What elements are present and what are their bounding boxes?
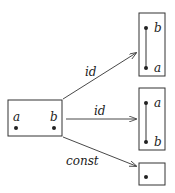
- source-set-box: a b: [8, 100, 62, 136]
- label-b: b: [154, 21, 162, 35]
- point-a: [144, 66, 148, 70]
- source-point-a: [14, 126, 18, 130]
- source-label-b: b: [50, 110, 58, 124]
- source-point-b: [52, 126, 56, 130]
- arrow-id-top: id: [63, 53, 136, 99]
- point-b: [144, 140, 148, 144]
- arrow-label: id: [94, 104, 106, 118]
- point: [144, 175, 148, 179]
- arrow-id-middle: id: [66, 104, 136, 119]
- target-box-bottom: [139, 163, 165, 185]
- arrow-const: const: [63, 137, 136, 168]
- source-label-a: a: [13, 110, 20, 124]
- arrow-label: id: [85, 65, 97, 79]
- diagram-canvas: a b b a a b id id const: [0, 0, 175, 193]
- target-box-top: b a: [139, 13, 165, 76]
- label-a: a: [154, 61, 161, 75]
- point-b: [144, 26, 148, 30]
- target-box-middle: a b: [139, 88, 165, 150]
- label-b: b: [154, 135, 162, 149]
- point-a: [144, 101, 148, 105]
- label-a: a: [154, 96, 161, 110]
- arrow-label: const: [66, 154, 99, 168]
